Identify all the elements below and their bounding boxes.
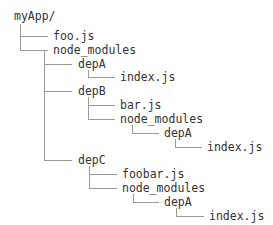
tree-node-node-modules: node_modules bbox=[122, 181, 205, 195]
connector-line bbox=[44, 160, 72, 161]
tree-root-label: myApp/ bbox=[14, 9, 56, 23]
connector-line bbox=[44, 64, 72, 65]
connector-line bbox=[20, 36, 48, 37]
tree-node-foobar-js: foobar.js bbox=[122, 167, 184, 181]
tree-node-foo-js: foo.js bbox=[53, 29, 95, 43]
tree-node-depA: depA bbox=[164, 195, 192, 209]
connector-line bbox=[175, 147, 202, 148]
connector-line bbox=[89, 174, 117, 175]
connector-line bbox=[88, 77, 115, 78]
tree-node-node-modules: node_modules bbox=[120, 112, 203, 126]
connector-line bbox=[88, 105, 115, 106]
connector-line bbox=[132, 133, 159, 134]
connector-line bbox=[88, 119, 115, 120]
tree-node-index-js: index.js bbox=[209, 209, 264, 223]
tree-node-depC: depC bbox=[78, 153, 106, 167]
tree-node-index-js: index.js bbox=[207, 140, 262, 154]
connector-line bbox=[88, 97, 89, 120]
connector-line bbox=[176, 216, 204, 217]
tree-node-depA: depA bbox=[78, 57, 106, 71]
connector-line bbox=[133, 202, 159, 203]
tree-node-depA: depA bbox=[164, 126, 192, 140]
connector-line bbox=[44, 50, 45, 161]
tree-node-index-js: index.js bbox=[120, 70, 175, 84]
tree-node-node-modules: node_modules bbox=[53, 43, 136, 57]
connector-line bbox=[20, 24, 21, 51]
tree-node-depB: depB bbox=[78, 84, 106, 98]
connector-line bbox=[44, 91, 72, 92]
tree-node-bar-js: bar.js bbox=[120, 98, 162, 112]
connector-line bbox=[89, 188, 117, 189]
connector-line bbox=[89, 166, 90, 189]
